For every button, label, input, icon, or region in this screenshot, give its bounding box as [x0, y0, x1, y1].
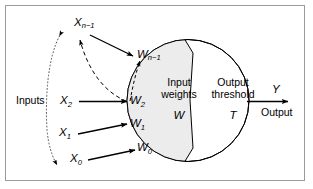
output-symbol-label: Y — [272, 83, 280, 96]
x-1-base: X — [59, 126, 67, 138]
input-label-x-1: X1 — [59, 126, 71, 139]
w-n-minus-1-sub: n−1 — [148, 53, 161, 62]
input-weights-caption-line1: Input — [153, 77, 205, 89]
w-0-base: W — [137, 141, 148, 153]
x-2-sub: 2 — [68, 100, 72, 109]
w-1-base: W — [130, 117, 141, 129]
arrow-xn-to-wn — [90, 35, 133, 56]
input-label-x-n-minus-1: Xn−1 — [74, 16, 95, 29]
w-1-sub: 1 — [141, 123, 145, 132]
w-0-sub: 0 — [148, 147, 152, 156]
weight-label-w-2: W2 — [130, 94, 145, 107]
arrow-x1-to-w1 — [78, 124, 127, 134]
weight-label-w-n-minus-1: Wn−1 — [137, 48, 161, 61]
w-2-sub: 2 — [141, 100, 145, 109]
input-label-x-0: X0 — [70, 152, 82, 165]
inputs-brace-dotted — [46, 36, 59, 165]
x-0-sub: 0 — [78, 158, 82, 167]
arrow-x0-to-w0 — [88, 150, 135, 160]
x-n-minus-1-sub: n−1 — [82, 21, 95, 30]
input-label-x-2: X2 — [60, 94, 72, 107]
x-0-base: X — [70, 152, 78, 164]
output-threshold-caption-line1: Output — [204, 77, 262, 89]
x-2-base: X — [60, 94, 68, 106]
w-2-base: W — [130, 94, 141, 106]
weight-label-w-1: W1 — [130, 117, 145, 130]
threshold-symbol-label: T — [204, 109, 262, 122]
output-group-label: Output — [261, 107, 293, 119]
output-threshold-caption-line2: threshold — [204, 89, 262, 101]
weight-label-w-0: W0 — [137, 141, 152, 154]
input-weights-caption-line2: weights — [153, 89, 205, 101]
inputs-group-label: Inputs — [16, 95, 45, 107]
x-n-minus-1-base: X — [74, 16, 82, 28]
w-n-minus-1-base: W — [137, 48, 148, 60]
figure-canvas: Inputs Xn−1 X2 X1 X0 Wn−1 W2 W1 W0 Input… — [0, 0, 313, 189]
x-1-sub: 1 — [67, 132, 71, 141]
weight-symbol-label: W — [153, 109, 205, 122]
